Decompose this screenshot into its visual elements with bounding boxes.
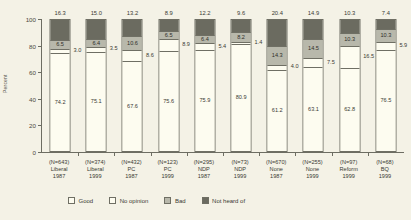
category-line-n: (N=73) [222,159,258,166]
bar-segment: 80.9 [232,45,251,151]
x-axis-tick-mark [223,152,224,156]
bar-segment: 63.1 [304,68,323,151]
stacked-bar-chart: Percent 020406080100 6.574.216.33.06.475… [0,0,411,220]
category-line-party: Liberal [77,166,113,173]
category-line-n: (N=670) [258,159,294,166]
stacked-bar[interactable]: 10.667.613.28.6 [122,19,143,152]
bar-segment: 6.4 [195,36,214,44]
stacked-bar[interactable]: 6.575.68.98.9 [158,19,179,152]
x-axis-category-label: (N=255)None1999 [294,159,330,181]
x-axis-category-label: (N=97)Reform1999 [331,159,367,181]
category-line-n: (N=123) [150,159,186,166]
top-value-label: 15.0 [91,11,102,17]
stacked-bar[interactable]: 14.563.114.97.5 [303,19,324,152]
bar-segment [232,20,251,33]
legend-label: Bad [175,198,186,204]
bar-group: 6.475.115.03.5 [78,19,114,152]
bar-segment [87,20,106,40]
legend-item[interactable]: Good [68,197,93,204]
segment-value-label: 63.1 [308,107,319,113]
top-value-label: 8.9 [165,11,173,17]
bar-segment [195,20,214,36]
segment-value-label: 61.2 [272,108,283,114]
bar-segment [340,20,359,34]
category-line-year: 1999 [150,173,186,180]
category-line-year: 1987 [186,173,222,180]
stacked-bar[interactable]: 6.475.115.03.5 [86,19,107,152]
category-line-n: (N=643) [41,159,77,166]
bar-group: 8.280.99.61.4 [223,19,259,152]
y-axis-tick-label: 0 [12,149,36,156]
segment-value-label: 80.9 [236,95,247,101]
segment-value-label: 6.5 [165,33,173,39]
segment-value-label: 67.6 [127,104,138,110]
category-line-year: 1999 [331,173,367,180]
stacked-bar[interactable]: 10.376.57.45.9 [375,19,396,152]
category-line-year: 1999 [222,173,258,180]
bar-segment: 76.5 [376,51,395,151]
x-axis-tick-mark [259,152,260,156]
category-line-party: BQ [367,166,403,173]
x-axis-tick-mark [151,152,152,156]
x-axis-category-label: (N=643)Liberal1987 [41,159,77,181]
segment-value-label: 14.5 [308,46,319,52]
legend-item[interactable]: Not heard of [202,197,246,204]
category-line-year: 1999 [294,173,330,180]
segment-value-label: 10.3 [380,33,391,39]
segment-value-label: 6.4 [201,37,209,43]
x-axis-category-label: (N=295)NDP1987 [186,159,222,181]
stacked-bar[interactable]: 14.361.220.44.0 [267,19,288,152]
bar-group: 10.667.613.28.6 [114,19,150,152]
bar-segment: 75.1 [87,53,106,151]
x-axis-category-label: (N=123)PC1999 [150,159,186,181]
bar-segment [304,59,323,69]
stacked-bar[interactable]: 6.475.912.25.4 [194,19,215,152]
x-axis-tick-mark [295,152,296,156]
legend-swatch-icon [109,197,116,204]
segment-value-label: 10.6 [127,41,138,47]
category-line-party: PC [113,166,149,173]
category-line-n: (N=295) [186,159,222,166]
bar-group: 6.475.912.25.4 [187,19,223,152]
chart-legend: GoodNo opinionBadNot heard of [68,197,245,204]
bar-group: 14.563.114.97.5 [295,19,331,152]
category-line-n: (N=374) [77,159,113,166]
category-line-party: None [258,166,294,173]
bar-segment [376,43,395,51]
legend-item[interactable]: Bad [164,197,185,204]
bar-segment: 10.3 [340,34,359,48]
bar-segment: 67.6 [123,62,142,151]
x-axis-category-label: (N=73)NDP1999 [222,159,258,181]
y-axis-tick-label: 20 [12,122,36,129]
category-line-year: 1987 [41,173,77,180]
bar-group: 6.575.68.98.9 [151,19,187,152]
bar-segment [376,20,395,30]
top-value-label: 12.2 [199,11,210,17]
segment-value-label: 14.3 [272,53,283,59]
segment-value-label: 10.3 [344,37,355,43]
bar-group: 10.376.57.45.9 [368,19,404,152]
stacked-bar[interactable]: 8.280.99.61.4 [231,19,252,152]
bar-segment [123,51,142,62]
y-axis-tick-label: 40 [12,95,36,102]
bar-group: 14.361.220.44.0 [259,19,295,152]
stacked-bar[interactable]: 10.362.810.316.5 [339,19,360,152]
x-axis-tick-mark [332,152,333,156]
x-axis-tick-mark [114,152,115,156]
stacked-bar[interactable]: 6.574.216.33.0 [50,19,71,152]
category-line-party: None [294,166,330,173]
y-axis-label: Percent [2,33,8,93]
bar-segment [123,20,142,37]
bar-segment [159,40,178,52]
top-value-label: 14.9 [308,11,319,17]
segment-value-label: 6.5 [56,42,64,48]
bar-segment: 10.3 [376,30,395,43]
x-axis-category-label: (N=432)PC1987 [113,159,149,181]
bar-segment: 62.8 [340,69,359,151]
legend-item[interactable]: No opinion [109,197,148,204]
bar-segment: 75.9 [195,51,214,151]
category-line-party: PC [150,166,186,173]
category-line-n: (N=68) [367,159,403,166]
segment-value-label: 75.9 [199,98,210,104]
category-line-party: NDP [222,166,258,173]
